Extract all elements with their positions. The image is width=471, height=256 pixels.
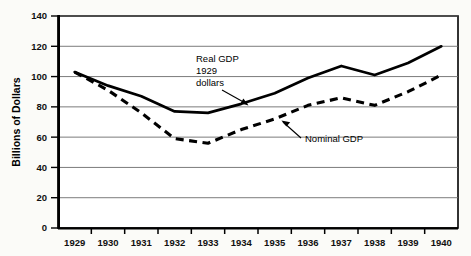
y-axis-title: Billions of Dollars (10, 77, 22, 166)
real-gdp-annotation-line3: dollars (196, 77, 224, 88)
nominal-gdp-annotation-label: Nominal GDP (305, 133, 363, 144)
x-tick-label: 1936 (297, 237, 318, 248)
plot-frame (58, 16, 458, 228)
x-tick-label: 1930 (97, 237, 118, 248)
x-tick-label: 1933 (197, 237, 218, 248)
x-tick-label: 1929 (64, 237, 85, 248)
y-tick-label: 100 (31, 71, 47, 82)
gdp-line-chart: 020406080100120140 192919301931193219331… (0, 0, 471, 256)
x-tick-label: 1939 (397, 237, 418, 248)
y-tick-label: 140 (31, 10, 47, 21)
chart-figure: 020406080100120140 192919301931193219331… (0, 0, 471, 256)
y-tick-label: 60 (36, 132, 47, 143)
y-tick-label: 0 (42, 222, 47, 233)
y-tick-label: 40 (36, 162, 47, 173)
y-tick-label: 80 (36, 101, 47, 112)
x-tick-label: 1940 (431, 237, 452, 248)
x-tick-label: 1938 (364, 237, 385, 248)
real-gdp-annotation-line2: 1929 (196, 65, 217, 76)
x-tick-label: 1934 (231, 237, 253, 248)
x-tick-label: 1937 (331, 237, 352, 248)
y-tick-label: 120 (31, 41, 47, 52)
x-tick-label: 1931 (131, 237, 153, 248)
x-tick-label: 1932 (164, 237, 185, 248)
x-tick-label: 1935 (264, 237, 286, 248)
real-gdp-annotation-line1: Real GDP (196, 53, 239, 64)
y-tick-label: 20 (36, 192, 47, 203)
